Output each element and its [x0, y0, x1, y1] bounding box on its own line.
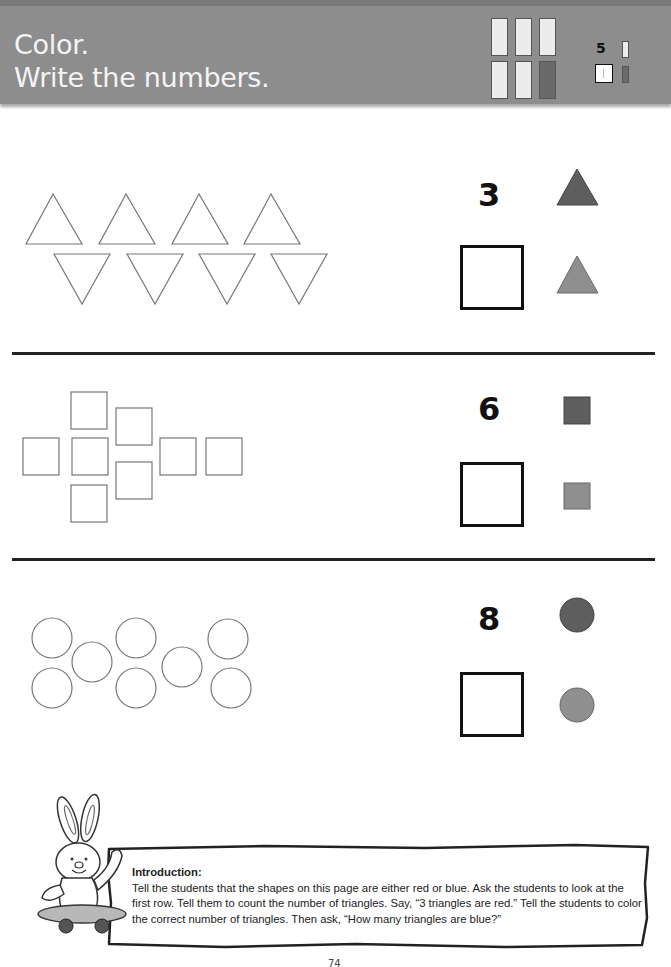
note-text: Introduction: Tell the students that the…	[132, 865, 642, 927]
circle[interactable]	[32, 668, 72, 708]
circle[interactable]	[162, 647, 202, 687]
answer-box-circles[interactable]	[460, 672, 524, 737]
circle-group	[0, 0, 671, 760]
circle[interactable]	[32, 618, 72, 658]
circle[interactable]	[116, 668, 156, 708]
note-heading: Introduction:	[132, 865, 642, 881]
circle[interactable]	[72, 642, 112, 682]
circle[interactable]	[116, 618, 156, 658]
circle[interactable]	[211, 668, 251, 708]
page-number: 74	[328, 958, 341, 967]
key-red-circle-icon	[560, 598, 594, 632]
bunny-skateboard-icon	[30, 790, 140, 940]
circle[interactable]	[208, 619, 248, 659]
row-circles: 8	[0, 0, 671, 760]
count-label-red: 8	[478, 600, 500, 638]
colorable-circles	[32, 618, 251, 708]
key-blue-circle-icon	[560, 688, 594, 722]
note-body: Tell the students that the shapes on thi…	[132, 882, 642, 925]
teacher-note: Introduction: Tell the students that the…	[105, 843, 650, 950]
